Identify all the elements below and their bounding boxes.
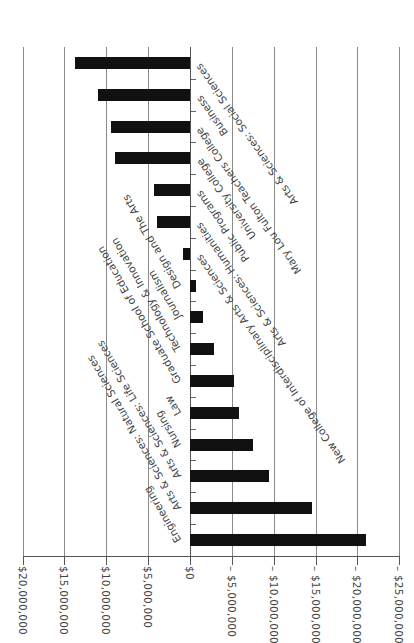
y-tick — [191, 270, 196, 271]
bar-chart: $20,000,000$15,000,000$10,000,000$5,000,… — [0, 0, 414, 643]
y-tick — [191, 174, 196, 175]
category-label: New College of Interdisciplinary Arts & … — [193, 253, 347, 466]
y-tick — [191, 492, 196, 493]
y-tick — [191, 111, 196, 112]
x-tick — [232, 556, 233, 565]
gridline — [316, 47, 317, 556]
y-tick — [191, 142, 196, 143]
y-tick — [191, 460, 196, 461]
x-tick — [106, 556, 107, 565]
bar — [190, 534, 366, 546]
bar — [190, 470, 269, 482]
bar — [190, 375, 234, 387]
x-axis-line — [23, 556, 400, 557]
bar — [115, 152, 190, 164]
y-tick — [191, 301, 196, 302]
y-tick — [191, 238, 196, 239]
gridline — [106, 47, 107, 556]
x-tick-label: $0 — [184, 566, 196, 580]
y-tick — [191, 397, 196, 398]
bar — [190, 407, 239, 419]
x-tick — [274, 556, 275, 565]
gridline — [23, 47, 24, 556]
bar — [157, 216, 190, 228]
x-tick — [190, 556, 191, 565]
bar — [98, 89, 190, 101]
y-tick — [191, 206, 196, 207]
y-tick — [191, 79, 196, 80]
x-tick — [148, 556, 149, 565]
bar — [75, 57, 190, 69]
y-tick — [191, 429, 196, 430]
bar — [111, 121, 190, 133]
y-tick — [191, 333, 196, 334]
x-tick — [64, 556, 65, 565]
gridline — [274, 47, 275, 556]
gridline — [64, 47, 65, 556]
gridline — [357, 47, 358, 556]
x-tick-label: – $5,000,000 — [226, 566, 238, 637]
gridline — [399, 47, 400, 556]
x-tick — [357, 556, 358, 565]
x-tick-label: – $10,000,000 — [268, 566, 280, 643]
x-tick-label: $10,000,000 — [100, 566, 112, 635]
bar — [190, 280, 196, 292]
y-tick — [191, 524, 196, 525]
x-tick-label: – $15,000,000 — [310, 566, 322, 643]
x-tick-label: $5,000,000 — [142, 566, 154, 628]
bar — [190, 311, 203, 323]
bar — [154, 184, 190, 196]
x-tick — [23, 556, 24, 565]
x-tick — [316, 556, 317, 565]
x-tick-label: – $20,000,000 — [351, 566, 363, 643]
x-tick-label: $20,000,000 — [17, 566, 29, 635]
x-tick-label: – $25,000,000 — [393, 566, 405, 643]
x-tick — [399, 556, 400, 565]
bar — [190, 439, 253, 451]
y-tick — [191, 365, 196, 366]
bar — [183, 248, 190, 260]
x-tick-label: $15,000,000 — [58, 566, 70, 635]
bar — [190, 343, 214, 355]
bar — [190, 502, 312, 514]
